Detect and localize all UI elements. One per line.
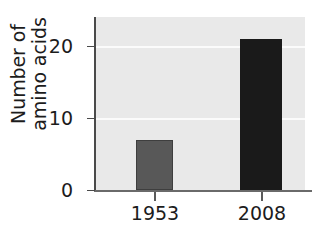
x-tick-label-1953: 1953: [110, 202, 200, 224]
y-tick-label-20: 20: [33, 35, 73, 57]
x-axis-line: [94, 190, 312, 192]
y-tick-mark-20: [87, 46, 95, 47]
x-tick-label-2008: 2008: [217, 202, 307, 224]
y-axis-line: [94, 17, 96, 191]
plot-area: [96, 17, 305, 190]
x-tick-mark-2008: [261, 192, 263, 201]
y-tick-label-0: 0: [33, 179, 73, 201]
y-axis-title: Number of amino acids: [3, 0, 55, 169]
bar-2008: [240, 39, 282, 190]
bar-1953: [136, 140, 173, 190]
x-tick-mark-1953: [154, 192, 156, 201]
y-tick-label-10: 10: [33, 107, 73, 129]
bar-chart-figure: Number of amino acids 0 10 20 1953 2008: [0, 0, 320, 234]
y-tick-mark-10: [87, 118, 95, 119]
y-axis-title-line-1: Number of: [8, 24, 29, 124]
y-tick-mark-0: [87, 190, 95, 191]
